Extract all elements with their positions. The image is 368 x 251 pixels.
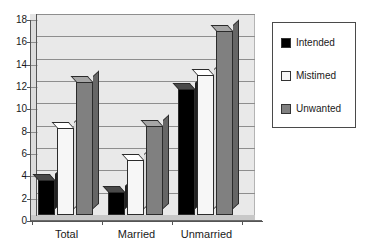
bar-chart: 024681012141618 TotalMarriedUnmarried In… — [0, 0, 368, 251]
bar-front-face — [108, 192, 125, 215]
bar-unmarried-mistimed — [197, 75, 214, 215]
y-axis-tick-label: 16 — [3, 37, 27, 47]
x-axis-tick-mark — [172, 221, 173, 225]
bar-side-face — [163, 114, 169, 209]
bar-total-mistimed — [57, 128, 74, 215]
x-axis-category-labels: TotalMarriedUnmarried — [30, 228, 263, 244]
x-axis-tick-mark — [102, 221, 103, 225]
x-axis-label-total: Total — [27, 228, 107, 240]
legend: Intended Mistimed Unwanted — [272, 22, 356, 128]
bar-front-face — [146, 126, 163, 215]
plot-area: 024681012141618 TotalMarriedUnmarried — [0, 0, 268, 251]
y-axis-tick-label: 8 — [3, 127, 27, 137]
bar-side-face — [93, 71, 99, 209]
bar-front-face — [197, 75, 214, 215]
bar-front-face — [76, 82, 93, 215]
bar-married-intended — [108, 192, 125, 215]
bar-side-face — [233, 19, 239, 209]
y-axis-tick-label: 18 — [3, 15, 27, 25]
y-axis-tick-label: 10 — [3, 104, 27, 114]
x-axis-tick-mark — [32, 221, 33, 225]
y-axis-tick-label: 4 — [3, 171, 27, 181]
bar-married-mistimed — [127, 160, 144, 215]
y-axis-tick-label: 14 — [3, 60, 27, 70]
x-axis-label-unmarried: Unmarried — [167, 228, 247, 240]
bar-front-face — [57, 128, 74, 215]
bar-unmarried-intended — [178, 89, 195, 215]
bar-front-face — [216, 31, 233, 215]
bar-front-face — [178, 89, 195, 215]
y-axis-tick-label: 2 — [3, 194, 27, 204]
y-axis-tick-label: 6 — [3, 149, 27, 159]
legend-item: Unwanted — [281, 103, 341, 114]
legend-label-intended: Intended — [296, 37, 335, 48]
y-axis-tick-label: 0 — [3, 216, 27, 226]
bar-total-unwanted — [76, 82, 93, 215]
legend-label-unwanted: Unwanted — [296, 103, 341, 114]
bar-front-face — [38, 180, 55, 215]
x-axis-label-married: Married — [97, 228, 177, 240]
x-axis-tick-mark — [242, 221, 243, 225]
legend-item: Mistimed — [281, 70, 336, 81]
legend-swatch-mistimed — [281, 71, 291, 81]
legend-swatch-intended — [281, 38, 291, 48]
legend-swatch-unwanted — [281, 104, 291, 114]
bar-front-face — [127, 160, 144, 215]
legend-item: Intended — [281, 37, 335, 48]
bar-total-intended — [38, 180, 55, 215]
bar-married-unwanted — [146, 126, 163, 215]
y-axis-tick-label: 12 — [3, 82, 27, 92]
y-axis-ticks: 024681012141618 — [0, 0, 27, 251]
bars-layer — [30, 14, 263, 222]
bar-unmarried-unwanted — [216, 31, 233, 215]
legend-label-mistimed: Mistimed — [296, 70, 336, 81]
